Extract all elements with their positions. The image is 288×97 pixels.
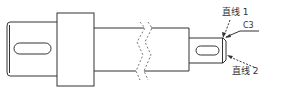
middle-shaft [94, 28, 189, 71]
left-journal [7, 22, 57, 76]
arrow-line1-icon [222, 32, 226, 38]
label-chamfer-c3: C3 [243, 22, 254, 30]
label-line1: 直线 1 [222, 8, 249, 17]
shoulder-collar [57, 13, 94, 86]
left-keyway [14, 43, 51, 54]
label-line2: 直线 2 [232, 67, 259, 76]
leader-chamfer [226, 31, 259, 37]
arrow-chamfer-icon [225, 34, 231, 38]
arrow-line2-icon [227, 55, 233, 59]
right-keyway [196, 46, 219, 55]
right-journal [189, 38, 226, 63]
